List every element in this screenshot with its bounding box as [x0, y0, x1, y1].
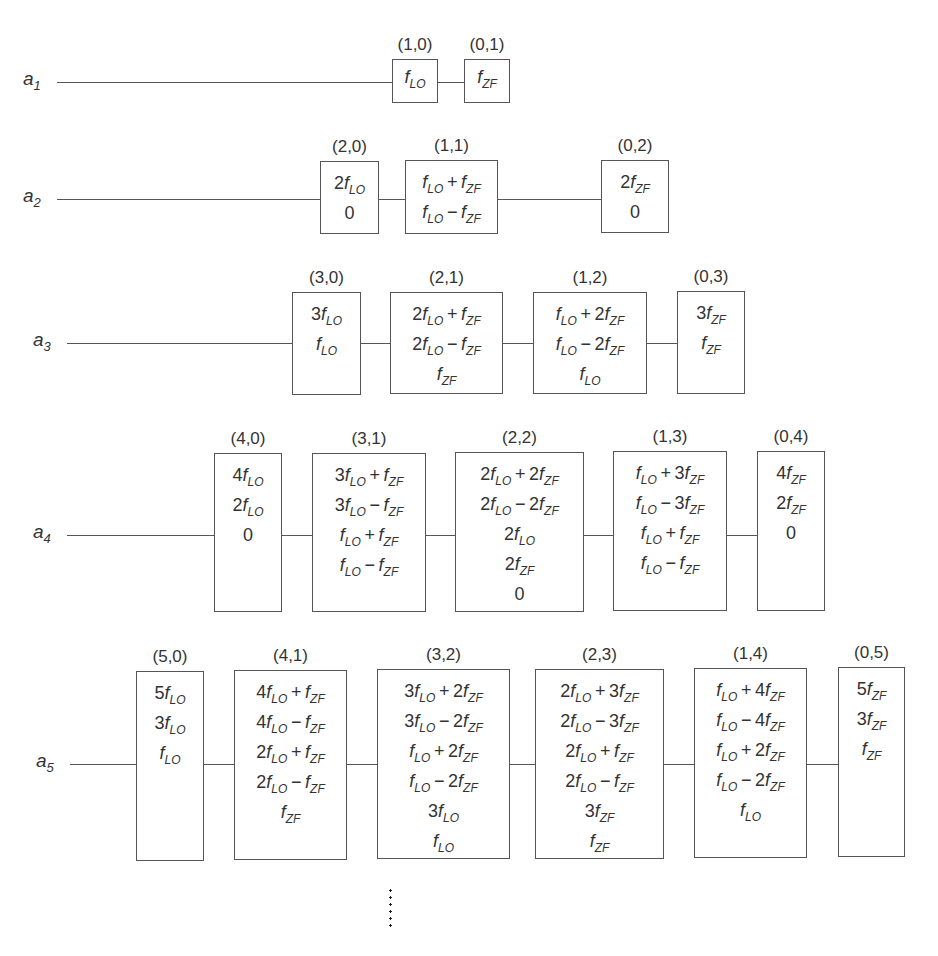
- frequency-term: 2fLO + 2fZF: [480, 463, 558, 493]
- coefficient-label: (1,3): [653, 427, 688, 447]
- product-box: 2fLO + 2fZF2fLO − 2fZF2fLO2fZF0: [455, 452, 584, 612]
- coefficient-label: (3,2): [426, 645, 461, 665]
- frequency-term: fLO − fZF: [641, 552, 699, 582]
- product-box: 4fZF2fZF0: [757, 451, 825, 611]
- coefficient-label: (3,1): [352, 429, 387, 449]
- frequency-term: 2fLO − fZF: [256, 771, 324, 801]
- coefficient-label: (0,3): [694, 267, 729, 287]
- frequency-term: fZF: [477, 66, 497, 96]
- frequency-term: 4fLO: [232, 464, 263, 494]
- coefficient-label: (2,2): [502, 428, 537, 448]
- coefficient-label: (2,1): [429, 268, 464, 288]
- coefficient-label: (2,0): [332, 137, 367, 157]
- frequency-term: 3fLO + fZF: [335, 464, 403, 494]
- product-box: 3fZFfZF: [677, 291, 745, 394]
- coefficient-label: (3,0): [309, 268, 344, 288]
- frequency-term: 2fLO + fZF: [412, 303, 480, 333]
- frequency-term: 2fZF: [776, 492, 806, 522]
- frequency-term: 4fZF: [776, 462, 806, 492]
- continuation-dots: [389, 887, 392, 929]
- coefficient-label: (1,4): [733, 644, 768, 664]
- row-label-a4: a4: [33, 521, 51, 546]
- product-box: 3fLO + 2fZF3fLO − 2fZFfLO + 2fZFfLO − 2f…: [377, 669, 510, 859]
- frequency-term: fZF: [862, 738, 882, 768]
- frequency-term: fLO: [316, 333, 337, 363]
- coefficient-label: (1,2): [573, 268, 608, 288]
- product-box: 5fZF3fZFfZF: [838, 667, 905, 857]
- product-box: 2fLO + fZF2fLO − fZFfZF: [390, 292, 503, 394]
- frequency-term: fLO − 2fZF: [556, 333, 624, 363]
- frequency-term: fLO − 3fZF: [636, 492, 704, 522]
- frequency-term: 5fZF: [857, 678, 887, 708]
- frequency-term: 3fLO − fZF: [335, 494, 403, 524]
- frequency-term: 2fLO: [334, 172, 365, 202]
- product-box: fZF: [464, 59, 510, 103]
- product-box: fLO + fZFfLO − fZF: [405, 160, 498, 234]
- frequency-term: fLO − 2fZF: [409, 770, 477, 800]
- frequency-term: 0: [344, 202, 354, 225]
- coefficient-label: (5,0): [153, 647, 188, 667]
- coefficient-label: (0,1): [470, 35, 505, 55]
- coefficient-label: (4,0): [231, 429, 266, 449]
- product-box: 3fLO + fZF3fLO − fZFfLO + fZFfLO − fZF: [312, 453, 426, 612]
- coefficient-label: (1,1): [434, 136, 469, 156]
- frequency-term: 3fLO: [311, 303, 342, 333]
- frequency-term: fLO: [433, 830, 454, 860]
- frequency-term: 0: [243, 524, 253, 547]
- frequency-term: fLO + 4fZF: [716, 679, 784, 709]
- frequency-term: 0: [786, 522, 796, 545]
- frequency-term: 3fLO: [154, 712, 185, 742]
- frequency-term: fZF: [437, 363, 457, 393]
- frequency-term: 3fZF: [696, 302, 726, 332]
- row-label-a2: a2: [23, 185, 41, 210]
- product-box: 2fLO + 3fZF2fLO − 3fZF2fLO + fZF2fLO − f…: [535, 669, 664, 859]
- row-label-a1: a1: [23, 68, 41, 93]
- frequency-term: 2fLO − fZF: [412, 333, 480, 363]
- frequency-term: 2fLO + fZF: [256, 741, 324, 771]
- frequency-term: fLO: [740, 799, 761, 829]
- product-box: fLO + 2fZFfLO − 2fZFfLO: [533, 292, 647, 394]
- product-box: fLO: [392, 59, 438, 103]
- frequency-term: fLO + 3fZF: [636, 462, 704, 492]
- coefficient-label: (4,1): [273, 646, 308, 666]
- frequency-term: 2fLO + 3fZF: [560, 680, 638, 710]
- product-box: 4fLO + fZF4fLO − fZF2fLO + fZF2fLO − fZF…: [234, 670, 347, 860]
- frequency-term: 2fZF: [620, 171, 650, 201]
- frequency-term: 2fZF: [505, 553, 535, 583]
- frequency-term: fLO: [159, 742, 180, 772]
- product-box: fLO + 3fZFfLO − 3fZFfLO + fZFfLO − fZF: [613, 451, 727, 611]
- row-label-a5: a5: [36, 750, 54, 775]
- coefficient-label: (0,4): [774, 427, 809, 447]
- frequency-term: 0: [630, 201, 640, 224]
- product-box: 3fLOfLO: [292, 292, 361, 395]
- frequency-term: fZF: [590, 830, 610, 860]
- frequency-term: fZF: [701, 332, 721, 362]
- product-box: 2fLO0: [320, 161, 379, 234]
- product-box: 4fLO2fLO0: [214, 453, 282, 612]
- frequency-term: fLO − 2fZF: [716, 769, 784, 799]
- frequency-term: 2fLO − 2fZF: [480, 493, 558, 523]
- frequency-term: fLO − fZF: [340, 554, 398, 584]
- coefficient-label: (0,2): [618, 136, 653, 156]
- frequency-term: fLO − 4fZF: [716, 709, 784, 739]
- frequency-term: 2fLO − fZF: [565, 770, 633, 800]
- coefficient-label: (1,0): [398, 35, 433, 55]
- frequency-term: 3fLO − 2fZF: [404, 710, 482, 740]
- row-label-a3: a3: [33, 329, 51, 354]
- frequency-term: fLO + 2fZF: [409, 740, 477, 770]
- frequency-term: 2fLO: [504, 523, 535, 553]
- product-box: 5fLO3fLOfLO: [136, 671, 204, 861]
- frequency-term: fLO + 2fZF: [716, 739, 784, 769]
- frequency-term: 5fLO: [154, 682, 185, 712]
- coefficient-label: (2,3): [582, 645, 617, 665]
- frequency-term: fLO + 2fZF: [556, 303, 624, 333]
- frequency-term: fLO: [579, 363, 600, 393]
- frequency-term: fZF: [281, 801, 301, 831]
- frequency-term: 3fLO + 2fZF: [404, 680, 482, 710]
- frequency-term: 2fLO: [232, 494, 263, 524]
- coefficient-label: (0,5): [854, 643, 889, 663]
- frequency-term: fLO + fZF: [641, 522, 699, 552]
- product-box: fLO + 4fZFfLO − 4fZFfLO + 2fZFfLO − 2fZF…: [694, 668, 807, 858]
- frequency-term: 4fLO + fZF: [256, 681, 324, 711]
- frequency-term: 0: [514, 583, 524, 606]
